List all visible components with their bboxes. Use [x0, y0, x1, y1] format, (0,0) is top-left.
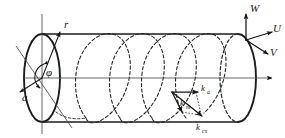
v-axis-line	[246, 40, 268, 54]
k-axial-subscript: a	[207, 89, 210, 95]
v-axis-label: V	[270, 46, 278, 58]
u-axis-line	[246, 32, 272, 40]
k-axial-label: k	[201, 83, 206, 93]
helix-entry-tail	[56, 112, 86, 119]
k-cross-section-label: k	[196, 122, 201, 132]
k-cross-section-subscript: cs	[202, 128, 208, 134]
azimuth-angle-marker: φ	[35, 64, 52, 88]
radial-axis-label: r	[64, 18, 69, 30]
cylinder-waveguide-diagram: r a φ W U V k	[0, 0, 285, 138]
radius-label: a	[22, 91, 28, 103]
azimuth-angle-label: φ	[46, 66, 52, 78]
k-cross-section-arrow	[172, 92, 202, 116]
k-parallelogram-side-line	[196, 92, 201, 114]
figure-root: r a φ W U V k	[0, 0, 285, 138]
w-axis-label: W	[250, 2, 260, 14]
wave-vector-decomposition: k a k m k cs	[172, 83, 210, 134]
u-axis-label: U	[273, 22, 282, 34]
